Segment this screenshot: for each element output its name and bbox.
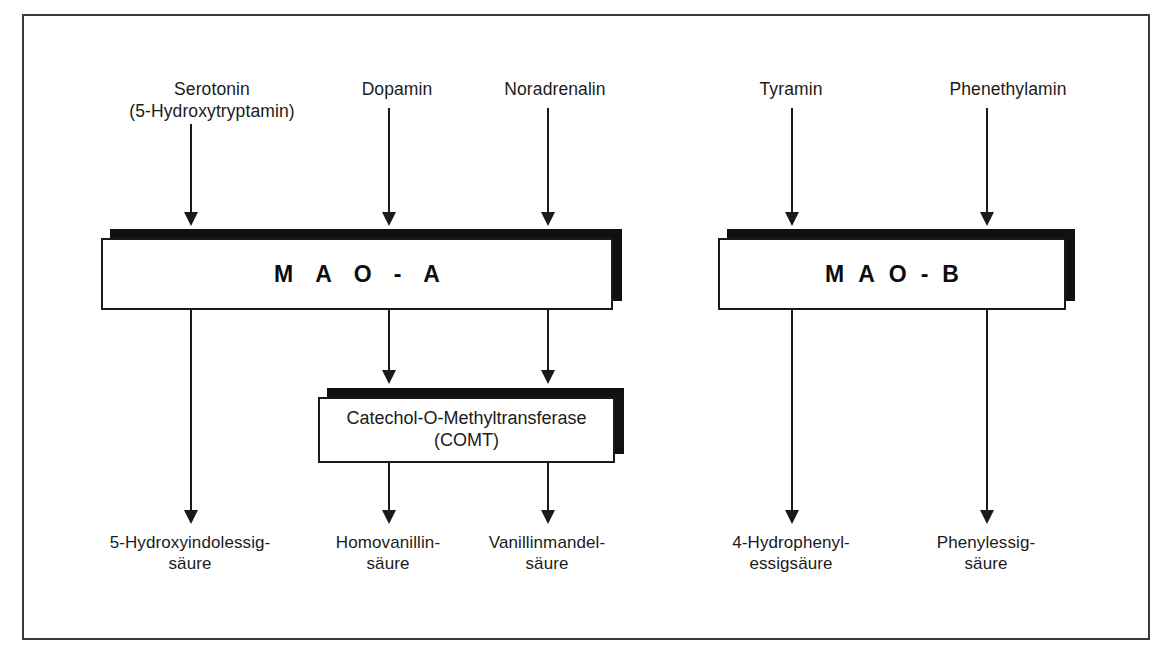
figure-border: Serotonin (5-Hydroxytryptamin) Dopamin N… [22, 14, 1150, 640]
connector-dopamin-to-maoa [388, 108, 390, 214]
connector-noradrenalin-to-maoa [547, 108, 549, 214]
enzyme-label-comt: Catechol-O-Methyltransferase (COMT) [346, 408, 586, 452]
enzyme-box-mao-a-face: MAO-A [101, 238, 613, 310]
enzyme-box-mao-b-face: MAO-B [718, 238, 1066, 310]
arrowhead-maob-to-phenylessigsaeure [980, 510, 994, 524]
connector-comt-to-vanillinmandelsaeure [547, 463, 549, 512]
product-label-hydrophenylessigsaeure: 4-Hydrophenyl- essigsäure [690, 532, 892, 575]
connector-maob-to-hydrophenylessigsaeure [791, 310, 793, 512]
enzyme-box-comt-face: Catechol-O-Methyltransferase (COMT) [318, 397, 615, 463]
arrowhead-dopamin-to-maoa [382, 212, 396, 226]
arrowhead-comt-to-vanillinmandelsaeure [541, 510, 555, 524]
connector-phenethylamin-to-maob [986, 108, 988, 214]
arrowhead-tyramin-to-maob [785, 212, 799, 226]
product-label-phenylessigsaeure: Phenylessig- säure [904, 532, 1068, 575]
enzyme-label-mao-a: MAO-A [252, 261, 462, 288]
enzyme-box-mao-b[interactable]: MAO-B [718, 238, 1066, 310]
arrowhead-serotonin-to-maoa [184, 212, 198, 226]
arrowhead-maoa-to-comt-dopamin [382, 370, 396, 384]
substrate-label-phenethylamin: Phenethylamin [892, 78, 1124, 100]
arrowhead-comt-to-homovanillinsaeure [382, 510, 396, 524]
arrowhead-noradrenalin-to-maoa [541, 212, 555, 226]
product-label-hydroxyindolessigsaeure: 5-Hydroxyindolessig- säure [82, 532, 298, 575]
arrowhead-maoa-to-comt-noradrenalin [541, 370, 555, 384]
arrowhead-maoa-to-hydroxyindolessigsaeure [184, 510, 198, 524]
connector-tyramin-to-maob [791, 108, 793, 214]
connector-maob-to-phenylessigsaeure [986, 310, 988, 512]
connector-maoa-to-hydroxyindolessigsaeure [190, 310, 192, 512]
connector-serotonin-to-maoa [190, 124, 192, 214]
product-label-vanillinmandelsaeure: Vanillinmandel- säure [464, 532, 630, 575]
enzyme-box-comt[interactable]: Catechol-O-Methyltransferase (COMT) [318, 397, 615, 463]
substrate-label-noradrenalin: Noradrenalin [462, 78, 648, 100]
product-label-homovanillinsaeure: Homovanillin- säure [306, 532, 470, 575]
arrowhead-maob-to-hydrophenylessigsaeure [785, 510, 799, 524]
connector-maoa-to-comt-noradrenalin [547, 310, 549, 372]
substrate-label-tyramin: Tyramin [710, 78, 872, 100]
connector-comt-to-homovanillinsaeure [388, 463, 390, 512]
diagram-canvas: Serotonin (5-Hydroxytryptamin) Dopamin N… [0, 0, 1168, 655]
enzyme-box-mao-a[interactable]: MAO-A [101, 238, 613, 310]
arrowhead-phenethylamin-to-maob [980, 212, 994, 226]
enzyme-label-mao-b: MAO-B [811, 261, 973, 288]
substrate-label-dopamin: Dopamin [314, 78, 480, 100]
connector-maoa-to-comt-dopamin [388, 310, 390, 372]
